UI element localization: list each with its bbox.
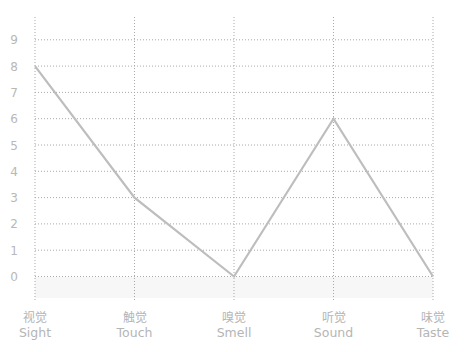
y-tick-label: 0 bbox=[10, 270, 18, 284]
y-axis-tick-labels: 0123456789 bbox=[10, 33, 18, 284]
y-tick-label: 1 bbox=[10, 244, 18, 258]
x-label-en-touch: Touch bbox=[116, 325, 153, 340]
x-axis-category-labels: 视觉Sight触觉Touch嗅觉Smell听觉Sound味觉Taste bbox=[19, 310, 450, 340]
x-label-en-smell: Smell bbox=[217, 325, 252, 340]
x-label-en-sight: Sight bbox=[19, 325, 51, 340]
x-label-zh-touch: 触觉 bbox=[123, 311, 147, 325]
y-tick-label: 5 bbox=[10, 139, 18, 153]
y-tick-label: 8 bbox=[10, 60, 18, 74]
y-tick-label: 7 bbox=[10, 86, 18, 100]
x-label-en-sound: Sound bbox=[314, 325, 353, 340]
line-chart: 0123456789 视觉Sight触觉Touch嗅觉Smell听觉Sound味… bbox=[0, 0, 469, 352]
y-tick-label: 9 bbox=[10, 33, 18, 47]
vertical-gridlines bbox=[35, 17, 433, 300]
x-label-zh-taste: 味觉 bbox=[421, 311, 445, 325]
y-tick-label: 4 bbox=[10, 165, 18, 179]
x-label-zh-smell: 嗅觉 bbox=[222, 311, 246, 325]
x-label-zh-sound: 听觉 bbox=[322, 311, 346, 325]
y-tick-label: 2 bbox=[10, 217, 18, 231]
x-label-en-taste: Taste bbox=[416, 325, 450, 340]
x-label-zh-sight: 视觉 bbox=[23, 310, 47, 325]
y-tick-label: 3 bbox=[10, 191, 18, 205]
y-tick-label: 6 bbox=[10, 112, 18, 126]
